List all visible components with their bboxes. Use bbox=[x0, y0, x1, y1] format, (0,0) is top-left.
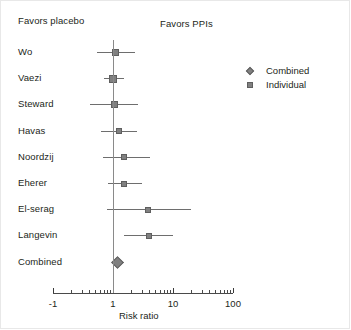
axis-tick-major bbox=[173, 288, 174, 293]
axis-tick-minor bbox=[227, 290, 228, 293]
plot-frame bbox=[0, 0, 350, 329]
study-label: Steward bbox=[18, 98, 54, 109]
axis-tick-label: 100 bbox=[213, 298, 253, 309]
axis-tick-minor bbox=[160, 290, 161, 293]
study-square-marker bbox=[121, 154, 127, 160]
axis-tick-minor bbox=[167, 290, 168, 293]
axis-tick-minor bbox=[209, 290, 210, 293]
legend-label: Combined bbox=[266, 65, 309, 76]
axis-tick-minor bbox=[89, 290, 90, 293]
axis-tick-minor bbox=[107, 290, 108, 293]
axis-tick-label: -1 bbox=[33, 298, 73, 309]
axis-tick-minor bbox=[191, 290, 192, 293]
axis-tick-minor bbox=[215, 290, 216, 293]
diamond-marker bbox=[246, 67, 254, 75]
axis-tick-major bbox=[233, 288, 234, 293]
axis-tick-minor bbox=[224, 290, 225, 293]
study-label: Noordzij bbox=[18, 151, 54, 162]
axis-tick-minor bbox=[142, 290, 143, 293]
axis-tick-minor bbox=[170, 290, 171, 293]
axis-tick-minor bbox=[202, 290, 203, 293]
axis-tick-minor bbox=[95, 290, 96, 293]
axis-tick-minor bbox=[100, 290, 101, 293]
axis-baseline bbox=[53, 293, 233, 294]
study-label: Combined bbox=[18, 256, 62, 267]
study-label: El-serag bbox=[18, 203, 54, 214]
favors-placebo-label: Favors placebo bbox=[18, 15, 84, 26]
axis-tick-minor bbox=[104, 290, 105, 293]
study-label: Langevin bbox=[18, 229, 57, 240]
forest-plot: Favors placebo Favors PPIs WoVaeziStewar… bbox=[0, 0, 351, 330]
study-label: Vaezi bbox=[18, 72, 42, 83]
study-square-marker bbox=[146, 233, 152, 239]
study-square-marker bbox=[121, 181, 127, 187]
axis-tick-minor bbox=[220, 290, 221, 293]
study-label: Eherer bbox=[18, 177, 47, 188]
axis-tick-label: 1 bbox=[93, 298, 133, 309]
axis-tick-minor bbox=[149, 290, 150, 293]
axis-tick-minor bbox=[164, 290, 165, 293]
null-reference-line bbox=[113, 40, 114, 293]
study-square-marker bbox=[145, 207, 151, 213]
axis-tick-minor bbox=[110, 290, 111, 293]
legend-label: Individual bbox=[266, 79, 306, 90]
axis-tick-minor bbox=[131, 290, 132, 293]
study-label: Wo bbox=[18, 46, 32, 57]
axis-tick-minor bbox=[230, 290, 231, 293]
axis-tick-major bbox=[53, 288, 54, 293]
axis-tick-label: 10 bbox=[153, 298, 193, 309]
axis-tick-minor bbox=[82, 290, 83, 293]
study-label: Havas bbox=[18, 125, 45, 136]
square-marker bbox=[247, 82, 253, 88]
axis-tick-minor bbox=[71, 290, 72, 293]
favors-ppis-label: Favors PPIs bbox=[160, 18, 213, 29]
study-square-marker bbox=[116, 128, 122, 134]
axis-tick-minor bbox=[155, 290, 156, 293]
x-axis-title: Risk ratio bbox=[119, 310, 159, 321]
study-square-marker bbox=[111, 101, 118, 108]
